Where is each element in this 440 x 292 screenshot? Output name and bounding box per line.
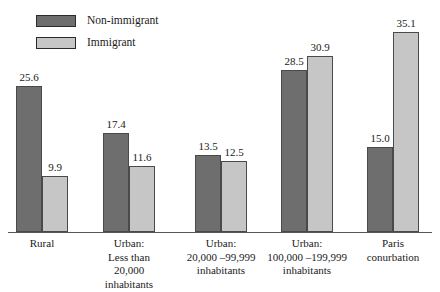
category-label-4: Paris conurbation: [341, 237, 440, 264]
bar-non-immigrant-3: [281, 70, 307, 232]
bar-value-label: 30.9: [301, 42, 339, 53]
bar-value-label: 25.6: [10, 72, 48, 83]
bar-value-label: 11.6: [123, 152, 161, 163]
plot-area: 25.69.917.411.613.512.528.530.915.035.1: [0, 0, 440, 233]
bar-value-label: 12.5: [215, 147, 253, 158]
bar-non-immigrant-2: [195, 155, 221, 232]
bar-non-immigrant-0: [16, 86, 42, 232]
category-label-1: Urban: Less than 20,000 inhabitants: [77, 237, 181, 291]
bar-non-immigrant-4: [367, 147, 393, 232]
bar-immigrant-4: [393, 32, 419, 232]
bar-immigrant-1: [129, 166, 155, 232]
bar-immigrant-0: [42, 176, 68, 232]
bar-non-immigrant-1: [103, 133, 129, 232]
x-axis-baseline: [8, 232, 432, 233]
bar-immigrant-2: [221, 161, 247, 232]
bar-chart: Non-immigrant Immigrant 25.69.917.411.61…: [0, 0, 440, 292]
bar-immigrant-3: [307, 56, 333, 232]
bar-value-label: 35.1: [387, 18, 425, 29]
bar-value-label: 9.9: [36, 162, 74, 173]
bar-value-label: 17.4: [97, 119, 135, 130]
